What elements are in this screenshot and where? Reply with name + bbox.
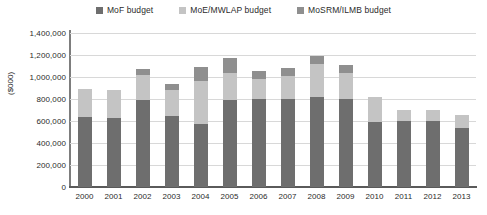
bar-segment[interactable] [426,121,440,187]
bar-segment[interactable] [368,122,382,187]
bar-segment[interactable] [107,90,121,118]
y-axis-tick-label: 600,000 [36,117,66,126]
bar-segment[interactable] [194,124,208,187]
table-row[interactable] [78,89,92,187]
bar-segment[interactable] [310,97,324,187]
bar-segment[interactable] [310,64,324,97]
bar-slot [273,33,302,187]
x-axis-tick-label: 2005 [215,192,244,208]
bar-slot [244,33,273,187]
legend-swatch-icon [179,7,186,14]
table-row[interactable] [426,110,440,187]
bar-segment[interactable] [107,118,121,187]
table-row[interactable] [223,58,237,187]
table-row[interactable] [194,67,208,187]
bar-segment[interactable] [252,99,266,187]
bar-group [70,33,476,187]
y-axis-tick-label: 200,000 [36,161,66,170]
x-axis-tick-label: 2001 [99,192,128,208]
bar-segment[interactable] [136,100,150,187]
y-axis-tick-label: 800,000 [36,95,66,104]
bar-segment[interactable] [194,67,208,82]
bar-segment[interactable] [339,65,353,73]
x-axis-tick-labels: 2000200120022003200420052006200720082009… [70,192,476,208]
bar-slot [389,33,418,187]
x-axis-tick-label: 2010 [360,192,389,208]
x-axis-tick-label: 2004 [186,192,215,208]
bar-segment[interactable] [281,99,295,187]
x-axis-tick-label: 2011 [389,192,418,208]
bar-slot [418,33,447,187]
table-row[interactable] [107,90,121,187]
x-axis-tick-label: 2009 [331,192,360,208]
bar-slot [447,33,476,187]
bar-segment[interactable] [310,56,324,64]
table-row[interactable] [397,110,411,187]
x-axis-tick-label: 2000 [70,192,99,208]
table-row[interactable] [455,115,469,187]
legend-item-label: MoSRM/ILMB budget [308,6,391,15]
bar-segment[interactable] [455,115,469,128]
y-axis-tick-label: 1,000,000 [30,73,67,82]
table-row[interactable] [281,68,295,187]
bar-segment[interactable] [165,116,179,188]
y-axis-tick-label: 1,200,000 [30,51,67,60]
x-axis-tick-label: 2008 [302,192,331,208]
bar-segment[interactable] [339,99,353,187]
bar-segment[interactable] [165,90,179,115]
bar-segment[interactable] [281,68,295,76]
bar-slot [128,33,157,187]
y-axis-tick-label: 0 [61,183,66,192]
bar-segment[interactable] [397,121,411,187]
x-axis-tick-label: 2012 [418,192,447,208]
bar-segment[interactable] [223,100,237,187]
bar-segment[interactable] [368,97,382,122]
legend-item-label: MoE/MWLAP budget [190,6,271,15]
bar-segment[interactable] [455,128,469,187]
bar-segment[interactable] [136,75,150,100]
table-row[interactable] [368,97,382,187]
legend-item-label: MoF budget [107,6,153,15]
plot-area [70,33,476,187]
bar-segment[interactable] [252,71,266,79]
x-axis-tick-label: 2003 [157,192,186,208]
table-row[interactable] [252,71,266,187]
bar-segment[interactable] [339,73,353,99]
bar-slot [215,33,244,187]
bar-segment[interactable] [165,84,179,91]
y-axis-tick-labels: 1,400,0001,200,0001,000,000800,000600,00… [14,26,66,192]
stacked-bar-chart: MoF budgetMoE/MWLAP budgetMoSRM/ILMB bud… [0,0,487,215]
bar-slot [360,33,389,187]
x-axis-tick-label: 2002 [128,192,157,208]
bar-segment[interactable] [78,89,92,117]
bar-segment[interactable] [426,110,440,121]
bar-slot [186,33,215,187]
bar-slot [99,33,128,187]
table-row[interactable] [165,84,179,187]
legend-item: MoF budget [96,6,153,15]
legend-swatch-icon [96,7,103,14]
x-axis-tick-label: 2013 [447,192,476,208]
y-axis-tick-label: 1,400,000 [30,29,67,38]
x-axis-tick-label: 2006 [244,192,273,208]
bar-segment[interactable] [397,110,411,121]
bar-segment[interactable] [223,58,237,72]
table-row[interactable] [339,65,353,187]
legend-item: MoSRM/ILMB budget [297,6,391,15]
y-axis-tick-label: 400,000 [36,139,66,148]
bar-slot [331,33,360,187]
legend-item: MoE/MWLAP budget [179,6,271,15]
bar-slot [302,33,331,187]
x-axis-tick-label: 2007 [273,192,302,208]
bar-segment[interactable] [281,76,295,99]
chart-legend: MoF budgetMoE/MWLAP budgetMoSRM/ILMB bud… [0,2,487,18]
legend-swatch-icon [297,7,304,14]
table-row[interactable] [136,69,150,187]
bar-slot [70,33,99,187]
bar-segment[interactable] [78,117,92,187]
bar-segment[interactable] [252,79,266,99]
bar-segment[interactable] [223,73,237,101]
table-row[interactable] [310,56,324,187]
bar-slot [157,33,186,187]
bar-segment[interactable] [194,81,208,123]
